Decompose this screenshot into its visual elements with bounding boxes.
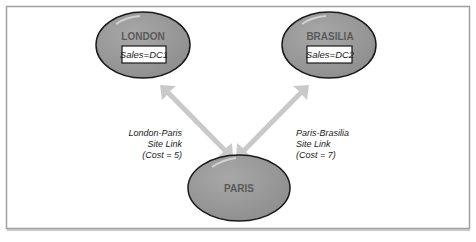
link-label-line: (Cost = 5) <box>142 150 182 160</box>
node-paris-label: PARIS <box>224 183 254 194</box>
site-link-diagram: LONDON Sales=DC1 BRASILIA Sales=DC2 PARI… <box>0 0 476 242</box>
node-london: LONDON Sales=DC1 <box>96 12 190 78</box>
node-london-box-text: Sales=DC1 <box>120 49 168 60</box>
link-label-line: London-Paris <box>128 128 182 138</box>
node-brasilia-box-text: Sales=DC2 <box>306 49 355 60</box>
link-label-line: (Cost = 7) <box>296 150 336 160</box>
link-label-line: Site Link <box>147 139 182 149</box>
node-paris: PARIS <box>188 155 290 221</box>
link-label-line: Paris-Brasilia <box>296 128 349 138</box>
node-brasilia: BRASILIA Sales=DC2 <box>282 12 376 78</box>
link-label-line: Site Link <box>296 139 331 149</box>
node-brasilia-label: BRASILIA <box>306 31 353 42</box>
node-london-label: LONDON <box>121 31 164 42</box>
